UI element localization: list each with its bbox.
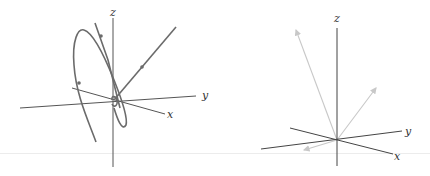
right-x-label: x — [394, 150, 401, 163]
loop-trajectory — [74, 30, 127, 142]
figure-canvas: z y x z y x — [0, 0, 430, 176]
outgoing-trajectory — [114, 27, 176, 100]
right-panel: z y x — [261, 12, 412, 166]
arrow-marker-incoming — [99, 34, 103, 38]
left-z-label: z — [109, 6, 116, 19]
left-panel: z y x — [20, 6, 209, 167]
right-y-axis — [261, 131, 402, 149]
arrow-marker-outgoing — [140, 65, 144, 69]
left-y-label: y — [201, 89, 209, 102]
left-x-label: x — [167, 108, 174, 121]
vector-upper-right — [337, 88, 376, 140]
vector-upper-left — [296, 30, 337, 140]
right-vectors — [296, 30, 376, 150]
arrow-marker-loop — [77, 81, 81, 85]
right-axes — [261, 28, 402, 166]
left-trajectories — [74, 23, 176, 142]
left-axes — [20, 18, 196, 167]
right-z-label: z — [333, 12, 340, 25]
right-y-label: y — [404, 125, 412, 138]
